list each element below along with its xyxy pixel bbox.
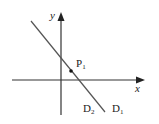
x-axis-label: x [134,82,140,94]
line-d2-label-sub: 2 [91,108,95,116]
line-d1-label-sub: 1 [120,108,124,116]
line-d2-label: D2 [83,102,95,116]
line-d2-label-main: D [83,102,91,114]
line-d1-d2 [31,21,105,112]
line-d1-label-main: D [112,102,120,114]
point-p1-label-sub: 1 [82,63,86,71]
coordinate-diagram: y x P1 D2 D1 [0,0,159,124]
line-d1-label: D1 [112,102,124,116]
y-axis-label: y [49,9,55,21]
point-p1-label: P1 [76,57,86,71]
point-p1 [69,69,73,73]
y-axis-arrow-icon [58,12,65,21]
